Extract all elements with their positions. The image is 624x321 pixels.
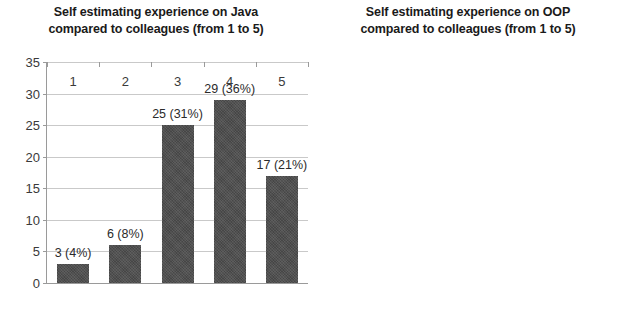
dual-bar-chart-figure: Self estimating experience on Java compa… [0, 0, 624, 321]
gridline [47, 62, 308, 63]
bar-value-label: 25 (31%) [152, 107, 203, 121]
y-axis-label: 5 [33, 244, 40, 259]
bar-value-label: 6 (8%) [107, 227, 144, 241]
y-axis-label: 30 [26, 86, 40, 101]
x-axis-tick [308, 62, 309, 67]
y-axis-tick [43, 94, 47, 95]
y-axis-label: 0 [33, 276, 40, 291]
chart-title-java: Self estimating experience on Java compa… [0, 4, 312, 38]
gridline [47, 94, 308, 95]
bar [266, 176, 298, 283]
y-axis-tick [43, 251, 47, 252]
bar [214, 100, 246, 283]
plot-area-java: 051015202530353 (4%)16 (8%)225 (31%)329 … [46, 62, 308, 284]
x-axis-tick [47, 62, 48, 67]
y-axis-tick [43, 157, 47, 158]
y-axis-label: 25 [26, 118, 40, 133]
x-axis-tick [204, 62, 205, 67]
x-axis-label: 3 [174, 74, 181, 89]
x-axis-tick [151, 62, 152, 67]
y-axis-tick [43, 125, 47, 126]
y-axis-label: 10 [26, 212, 40, 227]
chart-panel-oop: Self estimating experience on OOP compar… [312, 0, 624, 321]
y-axis-tick [43, 188, 47, 189]
x-axis-tick [99, 62, 100, 67]
x-axis-label: 1 [69, 74, 76, 89]
x-axis-label: 2 [122, 74, 129, 89]
bar [162, 125, 194, 283]
chart-panel-java: Self estimating experience on Java compa… [0, 0, 312, 321]
y-axis-label: 15 [26, 181, 40, 196]
y-axis-label: 35 [26, 55, 40, 70]
chart-title-oop: Self estimating experience on OOP compar… [312, 4, 624, 38]
x-axis-label: 4 [226, 74, 233, 89]
y-axis-tick [43, 283, 47, 284]
bar [109, 245, 141, 283]
y-axis-tick [43, 220, 47, 221]
y-axis-label: 20 [26, 149, 40, 164]
x-axis-label: 5 [278, 74, 285, 89]
bar-value-label: 3 (4%) [55, 246, 92, 260]
bar-value-label: 17 (21%) [257, 158, 308, 172]
x-axis-tick [256, 62, 257, 67]
bar [57, 264, 89, 283]
